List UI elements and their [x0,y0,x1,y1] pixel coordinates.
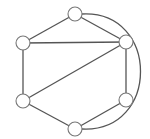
edge-top-left-upper [23,14,75,43]
node-left-lower [16,94,30,108]
edge-right-upper-left-lower [23,42,126,101]
edge-left-lower-bottom [23,101,75,129]
node-right-lower [119,93,133,107]
edge-left-upper-right-upper [23,42,126,43]
graph-edges [23,14,141,129]
edge-right-lower-bottom [75,100,126,129]
edge-top-right-upper [75,14,126,42]
graph-diagram [0,0,150,139]
node-right-upper [119,35,133,49]
node-top [68,7,82,21]
node-left-upper [16,36,30,50]
edge-top-bottom [82,14,141,129]
node-bottom [68,122,82,136]
